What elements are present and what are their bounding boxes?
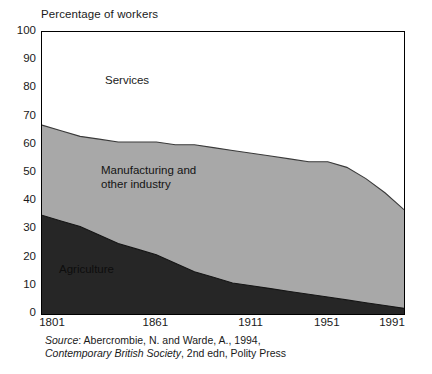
plot-area: Services Manufacturing and other industr… — [41, 31, 405, 315]
y-tick-label-60: 60 — [6, 138, 36, 150]
stacked-area-plot — [42, 32, 404, 314]
x-tick-label-1911: 1911 — [238, 317, 263, 329]
x-tick-label-1801: 1801 — [39, 317, 65, 329]
y-axis-tick-labels: 1009080706050403020100 — [0, 31, 36, 313]
source-note: Source: Abercrombie, N. and Warde, A., 1… — [45, 334, 415, 360]
y-tick-label-20: 20 — [6, 251, 36, 263]
source-label: Source — [45, 334, 78, 346]
source-publication: , 2nd edn, Polity Press — [181, 347, 286, 359]
x-tick-label-1991: 1991 — [379, 317, 405, 329]
x-tick-label-1861: 1861 — [143, 317, 169, 329]
source-title: Contemporary British Society — [45, 347, 181, 359]
y-tick-label-80: 80 — [6, 82, 36, 94]
y-tick-label-30: 30 — [6, 223, 36, 235]
y-tick-label-10: 10 — [6, 279, 36, 291]
y-tick-label-100: 100 — [6, 25, 36, 37]
x-axis-tick-labels: 18011861191119511991 — [0, 317, 432, 333]
y-tick-label-40: 40 — [6, 194, 36, 206]
y-tick-label-70: 70 — [6, 110, 36, 122]
y-tick-label-50: 50 — [6, 166, 36, 178]
x-tick-label-1951: 1951 — [314, 317, 340, 329]
source-authors: Abercrombie, N. and Warde, A., 1994, — [84, 334, 261, 346]
y-tick-label-90: 90 — [6, 53, 36, 65]
area-chart-figure: Percentage of workers 100908070605040302… — [0, 0, 432, 374]
y-axis-title: Percentage of workers — [41, 8, 158, 20]
